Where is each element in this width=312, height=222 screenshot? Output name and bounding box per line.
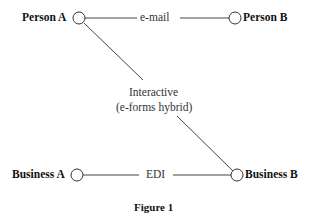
interactive-line-bottom	[177, 116, 233, 171]
edi-edge-label: EDI	[146, 169, 165, 181]
person-a-node-icon	[73, 12, 85, 24]
interactive-edge-label: Interactive	[129, 87, 178, 99]
interactive-line-top	[84, 23, 143, 80]
business-b-node-icon	[231, 169, 243, 181]
figure-caption: Figure 1	[134, 202, 173, 213]
business-b-label: Business B	[245, 169, 298, 181]
business-a-node-icon	[71, 169, 83, 181]
person-b-label: Person B	[243, 12, 287, 24]
interactive-edge-sublabel: (e-forms hybrid)	[116, 102, 192, 114]
person-a-label: Person A	[22, 12, 66, 24]
business-a-label: Business A	[12, 169, 65, 181]
person-b-node-icon	[229, 12, 241, 24]
email-edge-label: e-mail	[140, 12, 169, 24]
